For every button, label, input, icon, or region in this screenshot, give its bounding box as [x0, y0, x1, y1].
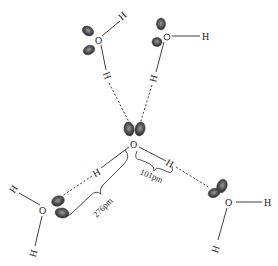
hydrogen-label: H — [91, 166, 103, 179]
covalent-bond — [35, 216, 42, 246]
diagram-canvas: O H H H H O H H 101pm 276pm — [0, 0, 278, 266]
covalent-bond — [102, 21, 120, 36]
lone-pair-lobe — [152, 38, 162, 47]
hydrogen-bond — [62, 176, 92, 196]
hydrogen-label: H — [209, 244, 222, 255]
hydrogen-bond — [176, 167, 210, 188]
hydrogen-label: H — [27, 248, 39, 258]
molecule-bottom-right: O H H — [207, 178, 271, 255]
covalent-bond — [101, 45, 106, 70]
molecule-top-left: O H H — [81, 9, 129, 80]
molecule-center: O H H — [91, 121, 176, 179]
hydrogen-label: H — [264, 197, 271, 208]
oxygen-atom — [164, 34, 170, 40]
hydrogen-label: H — [164, 157, 176, 170]
water-hydrogen-bond-diagram: O H H H H O H H 101pm 276pm — [0, 0, 278, 266]
oxygen-label: O — [95, 35, 102, 46]
lone-pair-lobe — [123, 121, 135, 137]
molecule-top-right: H H — [147, 18, 209, 83]
molecule-bottom-left: O H H — [7, 183, 70, 258]
lone-pair-lobe — [81, 24, 96, 38]
o-o-distance-annotation: 276pm — [62, 150, 128, 219]
hydrogen-label: H — [7, 183, 20, 195]
o-o-distance-label: 276pm — [91, 195, 115, 219]
oxygen-label: O — [130, 139, 137, 150]
brace-276pm — [62, 150, 128, 216]
hydrogen-label: H — [147, 73, 159, 83]
hydrogen-label: H — [101, 70, 114, 81]
hydrogen-label: H — [202, 31, 209, 42]
covalent-bond — [218, 208, 227, 240]
oxygen-label: O — [225, 197, 232, 208]
oxygen-label: O — [39, 205, 46, 216]
covalent-bond — [19, 193, 40, 205]
hydrogen-bond — [109, 83, 130, 124]
lone-pair-lobe — [54, 207, 70, 219]
covalent-bond — [139, 147, 166, 161]
lone-pair-lobe — [50, 194, 66, 208]
lone-pair-lobe — [157, 18, 166, 30]
covalent-bond — [101, 147, 129, 168]
hydrogen-label: H — [116, 9, 129, 22]
hydrogen-bond — [140, 85, 152, 124]
lone-pair-lobe — [133, 121, 146, 137]
